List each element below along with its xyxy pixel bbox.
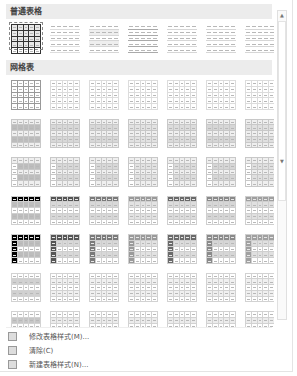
table-style-grid-6-3[interactable]	[128, 311, 158, 327]
table-style-grid-3-2[interactable]	[89, 196, 119, 220]
menu-item-label: 修改表格样式(M)...	[29, 331, 89, 341]
table-style-grid-3-0[interactable]	[11, 196, 41, 220]
clear-icon	[8, 346, 17, 355]
table-style-grid-4-4[interactable]	[167, 234, 197, 258]
table-style-gallery: 普通表格网格表清单表	[6, 4, 274, 327]
table-style-grid-5-1[interactable]	[50, 273, 80, 297]
table-style-plain-0-0[interactable]	[11, 24, 41, 48]
table-style-grid-2-0[interactable]	[11, 157, 41, 181]
table-style-grid-3-6[interactable]	[245, 196, 274, 220]
table-style-grid-6-5[interactable]	[206, 311, 236, 327]
table-style-grid-2-4[interactable]	[167, 157, 197, 181]
scrollbar-thumb[interactable]	[278, 21, 286, 201]
table-style-grid-0-4[interactable]	[167, 80, 197, 104]
table-style-grid-1-4[interactable]	[167, 119, 197, 143]
table-style-grid-6-1[interactable]	[50, 311, 80, 327]
table-style-grid-6-0[interactable]	[11, 311, 41, 327]
table-style-grid-2-5[interactable]	[206, 157, 236, 181]
table-style-grid-2-2[interactable]	[89, 157, 119, 181]
table-style-grid-4-2[interactable]	[89, 234, 119, 258]
table-style-grid-5-5[interactable]	[206, 273, 236, 297]
table-style-grid-0-1[interactable]	[50, 80, 80, 104]
table-style-grid-1-1[interactable]	[50, 119, 80, 143]
table-style-plain-0-6[interactable]	[245, 24, 274, 48]
menu-item-label: 新建表格样式(N)...	[29, 359, 88, 369]
table-style-grid-4-5[interactable]	[206, 234, 236, 258]
table-style-grid-2-1[interactable]	[50, 157, 80, 181]
menu-divider	[6, 327, 272, 328]
table-style-grid-3-5[interactable]	[206, 196, 236, 220]
table-style-grid-6-2[interactable]	[89, 311, 119, 327]
table-style-grid-4-3[interactable]	[128, 234, 158, 258]
table-style-grid-1-2[interactable]	[89, 119, 119, 143]
table-style-grid-0-0[interactable]	[11, 80, 41, 104]
table-style-grid-4-0[interactable]	[11, 234, 41, 258]
table-style-grid-3-3[interactable]	[128, 196, 158, 220]
table-style-grid-5-0[interactable]	[11, 273, 41, 297]
table-style-grid-4-1[interactable]	[50, 234, 80, 258]
section-header-plain: 普通表格	[6, 4, 272, 19]
table-style-grid-0-2[interactable]	[89, 80, 119, 104]
table-style-grid-0-6[interactable]	[245, 80, 274, 104]
table-style-plain-0-2[interactable]	[89, 24, 119, 48]
table-style-grid-1-3[interactable]	[128, 119, 158, 143]
menu-item-label: 清除(C)	[29, 345, 53, 355]
table-style-grid-1-0[interactable]	[11, 119, 41, 143]
new-table-style-menu-item[interactable]: 新建表格样式(N)...	[8, 357, 88, 371]
table-style-plain-0-5[interactable]	[206, 24, 236, 48]
scroll-up-button[interactable]: ▲	[278, 11, 286, 19]
table-style-grid-3-1[interactable]	[50, 196, 80, 220]
table-styles-dropdown: 普通表格网格表清单表 ▲ ▼ 修改表格样式(M)... 清除(C) 新建表格样式…	[0, 0, 293, 372]
new-table-style-icon	[8, 360, 17, 369]
table-style-grid-3-4[interactable]	[167, 196, 197, 220]
clear-menu-item[interactable]: 清除(C)	[8, 343, 53, 357]
table-style-grid-4-6[interactable]	[245, 234, 274, 258]
scroll-down-button[interactable]: ▼	[278, 157, 286, 165]
table-style-grid-1-5[interactable]	[206, 119, 236, 143]
table-style-grid-5-3[interactable]	[128, 273, 158, 297]
table-style-grid-1-6[interactable]	[245, 119, 274, 143]
gallery-scrollbar[interactable]: ▲ ▼	[277, 10, 287, 320]
table-style-grid-6-6[interactable]	[245, 311, 274, 327]
table-style-grid-2-6[interactable]	[245, 157, 274, 181]
table-style-grid-0-5[interactable]	[206, 80, 236, 104]
table-style-grid-0-3[interactable]	[128, 80, 158, 104]
table-style-plain-0-3[interactable]	[128, 24, 158, 48]
table-style-plain-0-4[interactable]	[167, 24, 197, 48]
table-style-grid-6-4[interactable]	[167, 311, 197, 327]
section-header-grid: 网格表	[6, 60, 272, 75]
table-style-grid-2-3[interactable]	[128, 157, 158, 181]
table-style-grid-5-2[interactable]	[89, 273, 119, 297]
table-style-grid-5-4[interactable]	[167, 273, 197, 297]
table-style-grid-5-6[interactable]	[245, 273, 274, 297]
modify-table-style-menu-item[interactable]: 修改表格样式(M)...	[8, 329, 89, 343]
table-style-plain-0-1[interactable]	[50, 24, 80, 48]
modify-table-style-icon	[8, 332, 17, 341]
